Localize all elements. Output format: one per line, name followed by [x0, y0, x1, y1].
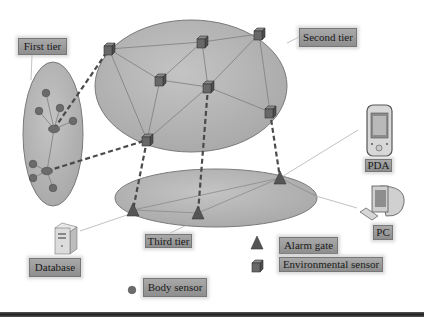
legend-circle-icon	[128, 286, 136, 294]
database-server-icon	[55, 223, 77, 254]
first-tier-label: First tier	[18, 38, 67, 55]
third-tier-ellipse	[115, 169, 317, 227]
pc-icon	[360, 186, 404, 220]
pc-label: PC	[373, 225, 393, 240]
bottom-rule	[0, 312, 424, 317]
legend-cube-icon	[252, 260, 263, 272]
database-label: Database	[29, 258, 81, 277]
legend-environmental-sensor-label: Environmental sensor	[279, 257, 383, 272]
pda-icon	[367, 105, 392, 156]
second-tier-label: Second tier	[299, 28, 357, 47]
pda-label: PDA	[365, 159, 392, 172]
legend-alarm-gate-label: Alarm gate	[279, 237, 338, 254]
legend-body-sensor-label: Body sensor	[143, 278, 207, 297]
third-tier-label: Third tier	[145, 234, 192, 248]
legend-triangle-icon	[251, 236, 263, 249]
